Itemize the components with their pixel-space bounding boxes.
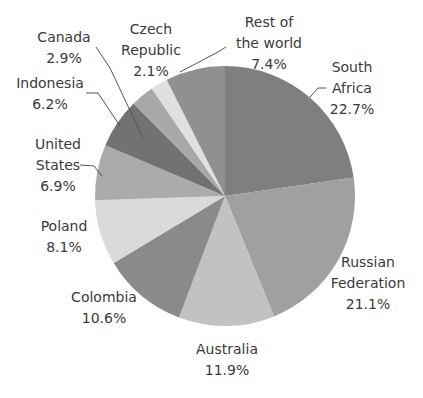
label-united-states: United States 6.9% — [35, 134, 81, 197]
label-poland: Poland 8.1% — [41, 216, 88, 258]
label-czech-republic-line1: Czech — [121, 19, 181, 40]
label-united-states-line1: United — [35, 134, 81, 155]
label-indonesia-line1: Indonesia — [16, 73, 84, 94]
label-australia: Australia 11.9% — [196, 339, 258, 381]
label-indonesia-pct: 6.2% — [16, 94, 84, 115]
label-south-africa-pct: 22.7% — [330, 99, 374, 120]
label-south-africa: South Africa 22.7% — [330, 57, 374, 120]
label-poland-pct: 8.1% — [41, 237, 88, 258]
label-poland-line1: Poland — [41, 216, 88, 237]
label-czech-republic-pct: 2.1% — [121, 61, 181, 82]
label-indonesia: Indonesia 6.2% — [16, 73, 84, 115]
label-czech-republic: Czech Republic 2.1% — [121, 19, 181, 82]
label-australia-pct: 11.9% — [196, 360, 258, 381]
label-south-africa-line2: Africa — [330, 78, 374, 99]
label-colombia-pct: 10.6% — [71, 308, 137, 329]
label-canada-pct: 2.9% — [37, 48, 90, 69]
label-colombia: Colombia 10.6% — [71, 287, 137, 329]
label-canada: Canada 2.9% — [37, 27, 90, 69]
label-canada-line1: Canada — [37, 27, 90, 48]
label-united-states-line2: States — [35, 155, 81, 176]
label-czech-republic-line2: Republic — [121, 40, 181, 61]
label-russian-federation-line2: Federation — [331, 273, 406, 294]
label-rest-of-world: Rest of the world 7.4% — [236, 12, 302, 75]
label-united-states-pct: 6.9% — [35, 176, 81, 197]
label-russian-federation-pct: 21.1% — [331, 294, 406, 315]
leader-line-south-africa — [310, 88, 326, 97]
label-russian-federation-line1: Russian — [331, 252, 406, 273]
label-australia-line1: Australia — [196, 339, 258, 360]
label-russian-federation: Russian Federation 21.1% — [331, 252, 406, 315]
label-rest-of-world-line1: Rest of — [236, 12, 302, 33]
leader-line-indonesia — [86, 93, 120, 126]
label-rest-of-world-pct: 7.4% — [236, 54, 302, 75]
label-rest-of-world-line2: the world — [236, 33, 302, 54]
label-colombia-line1: Colombia — [71, 287, 137, 308]
label-south-africa-line1: South — [330, 57, 374, 78]
